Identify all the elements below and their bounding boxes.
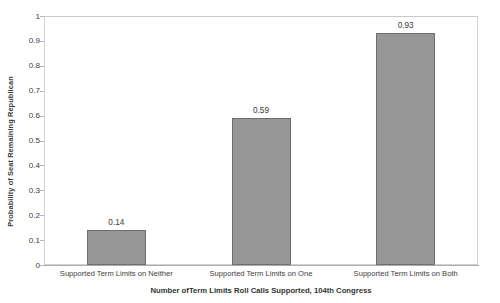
x-axis-category-label: Supported Term Limits on Neither	[44, 269, 189, 278]
bar[interactable]	[87, 230, 146, 265]
bar-group: 0.59	[232, 16, 291, 265]
x-axis-category-label: Supported Term Limits on Both	[333, 269, 478, 278]
bars-layer: 0.140.590.93	[44, 16, 478, 265]
bar-group: 0.14	[87, 16, 146, 265]
bar[interactable]	[376, 33, 435, 265]
y-axis-tick-label: 0.3	[29, 185, 40, 195]
bar-chart-figure: Probability of Seat Remaining Republican…	[0, 0, 500, 303]
y-axis-tick-label: 0.8	[29, 61, 40, 71]
x-axis-category-labels: Supported Term Limits on NeitherSupporte…	[44, 269, 478, 283]
bar-value-label: 0.14	[87, 218, 146, 227]
bar-value-label: 0.59	[232, 106, 291, 115]
x-axis-line	[44, 265, 479, 266]
y-axis-tick-label: 0.6	[29, 111, 40, 121]
x-axis-category-label: Supported Term Limits on One	[189, 269, 334, 278]
y-axis-tick-label: 0.9	[29, 36, 40, 46]
y-axis-tick-label: 0.2	[29, 210, 40, 220]
y-axis-ticks: 10.90.80.70.60.50.40.30.20.10	[0, 0, 40, 303]
bar-value-label: 0.93	[376, 21, 435, 30]
y-axis-tick-label: 0.4	[29, 160, 40, 170]
y-axis-tick-label: 0.7	[29, 86, 40, 96]
y-axis-tick-label: 0.1	[29, 235, 40, 245]
y-axis-tick-label: 0.5	[29, 136, 40, 146]
x-axis-title: Number ofTerm Limits Roll Calls Supporte…	[44, 286, 478, 295]
bar[interactable]	[232, 118, 291, 265]
bar-group: 0.93	[376, 16, 435, 265]
